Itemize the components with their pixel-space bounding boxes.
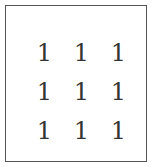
matrix-cell: 1: [63, 112, 100, 151]
matrix-cell: 1: [100, 34, 137, 73]
matrix-cell: 1: [26, 112, 63, 151]
matrix-cell: 1: [26, 34, 63, 73]
matrix-cell: 1: [100, 73, 137, 112]
matrix-cell: 1: [26, 73, 63, 112]
matrix-cell: 1: [63, 73, 100, 112]
matrix-box: 1 1 1 1 1 1 1 1 1: [5, 5, 147, 162]
matrix-cell: 1: [63, 34, 100, 73]
matrix-cell: 1: [100, 112, 137, 151]
matrix-grid: 1 1 1 1 1 1 1 1 1: [26, 34, 138, 144]
